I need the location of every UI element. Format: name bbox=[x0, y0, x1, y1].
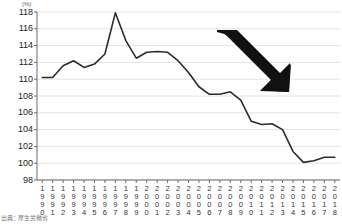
x-axis-tick-label: 2014 bbox=[288, 185, 297, 217]
x-axis-tick-label: 2015 bbox=[299, 185, 308, 217]
x-axis-tick-label: 1996 bbox=[100, 185, 109, 217]
x-axis-tick-label: 1991 bbox=[48, 185, 57, 217]
x-axis-tick-label: 2006 bbox=[205, 185, 214, 217]
x-axis-tick-label: 2005 bbox=[194, 185, 203, 217]
x-axis-tick-label: 1994 bbox=[80, 185, 89, 217]
x-axis-tick-label: 1999 bbox=[132, 185, 141, 217]
x-axis-tick-label: 2003 bbox=[174, 185, 183, 217]
x-axis-tick-label: 2000 bbox=[142, 185, 151, 217]
x-axis-tick-label: 2018 bbox=[330, 185, 339, 217]
x-axis-tick-label: 2009 bbox=[236, 185, 245, 217]
x-axis-tick-label: 2007 bbox=[215, 185, 224, 217]
x-axis-tick-label: 1992 bbox=[59, 185, 68, 217]
x-axis-tick-label: 1993 bbox=[69, 185, 78, 217]
x-axis-tick-label: 1995 bbox=[90, 185, 99, 217]
x-axis-tick-label: 2010 bbox=[247, 185, 256, 217]
x-axis-labels: 1990199119921993199419951996199719981999… bbox=[0, 0, 342, 224]
x-axis-tick-label: 2011 bbox=[257, 185, 266, 217]
x-axis-tick-label: 2002 bbox=[163, 185, 172, 217]
x-axis-tick-label: 2012 bbox=[268, 185, 277, 217]
x-axis-tick-label: 2017 bbox=[320, 185, 329, 217]
x-axis-tick-label: 1998 bbox=[121, 185, 130, 217]
x-axis-tick-label: 2001 bbox=[153, 185, 162, 217]
x-axis-tick-label: 1997 bbox=[111, 185, 120, 217]
x-axis-tick-label: 2016 bbox=[309, 185, 318, 217]
x-axis-tick-label: 2004 bbox=[184, 185, 193, 217]
x-axis-tick-label: 2008 bbox=[226, 185, 235, 217]
source-note: 出典：厚生労働省 bbox=[1, 213, 47, 222]
x-axis-tick-label: 2013 bbox=[278, 185, 287, 217]
chart-container: (%) 11811611411211010810610410210098 199… bbox=[0, 0, 342, 224]
